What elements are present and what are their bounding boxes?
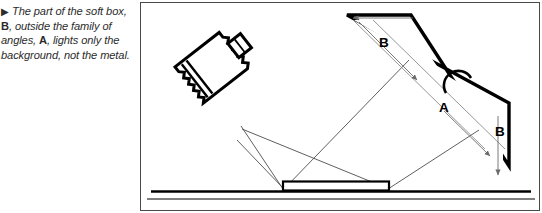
family-of-angles-rays xyxy=(237,60,479,189)
figure-frame: B A B xyxy=(140,2,540,211)
caption-emphasis-a: A xyxy=(39,34,47,46)
caption-text: ▶ The part of the soft box, B, outside t… xyxy=(0,4,134,62)
label-panel-mid-a: A xyxy=(439,100,449,115)
soft-box-light-source xyxy=(175,23,260,104)
lighting-diagram-svg: B A B xyxy=(141,3,539,210)
ground-line xyxy=(147,192,535,200)
label-panel-top-b: B xyxy=(379,35,389,50)
label-panel-bottom-b: B xyxy=(495,124,505,139)
figure-page: ▶ The part of the soft box, B, outside t… xyxy=(0,0,542,213)
angled-soft-box-panel xyxy=(347,15,509,166)
metal-subject-block xyxy=(283,182,389,191)
caption-block: ▶ The part of the soft box, B, outside t… xyxy=(0,4,134,209)
caption-run-1: The part of the soft box, xyxy=(12,5,130,17)
caption-emphasis-b: B xyxy=(1,20,9,32)
caption-arrow-icon: ▶ xyxy=(1,6,9,17)
